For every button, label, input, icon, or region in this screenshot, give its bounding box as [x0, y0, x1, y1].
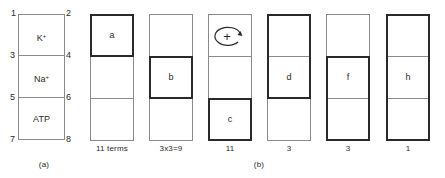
corner-number-6: 6	[66, 92, 71, 102]
term-label: h	[386, 72, 430, 82]
panel-b-caption: (b)	[229, 160, 289, 170]
term-count: 1	[378, 144, 438, 154]
cell	[267, 14, 311, 57]
cell	[208, 56, 252, 99]
corner-number-1: 1	[11, 8, 16, 18]
panel-a-caption: (a)	[14, 160, 74, 170]
rotation-icon: +	[213, 23, 247, 49]
cell	[149, 14, 193, 57]
cell	[386, 14, 430, 57]
corner-number-8: 8	[66, 134, 71, 144]
term-count: 3	[259, 144, 319, 154]
cell	[326, 98, 370, 141]
term-count: 3x3=9	[141, 144, 201, 154]
cell	[326, 14, 370, 57]
term-label: f	[326, 72, 370, 82]
corner-number-7: 7	[10, 134, 15, 144]
corner-number-3: 3	[10, 50, 15, 60]
cell	[149, 98, 193, 141]
svg-text:+: +	[223, 29, 231, 44]
cell	[90, 56, 134, 99]
term-label: b	[149, 72, 193, 82]
term-label: d	[267, 72, 311, 82]
corner-number-2: 2	[66, 8, 71, 18]
term-label: c	[208, 114, 252, 124]
ion-label-atp: ATP	[18, 114, 65, 124]
term-count: 11	[200, 144, 260, 154]
cell	[386, 98, 430, 141]
ion-label-na: Na+	[18, 72, 65, 84]
ion-label-k: K+	[18, 31, 65, 43]
term-count: 3	[318, 144, 378, 154]
cell	[267, 98, 311, 141]
term-count: 11 terms	[82, 144, 142, 154]
corner-number-5: 5	[10, 92, 15, 102]
cell	[90, 98, 134, 141]
corner-number-4: 4	[66, 50, 71, 60]
term-label: a	[90, 30, 134, 40]
